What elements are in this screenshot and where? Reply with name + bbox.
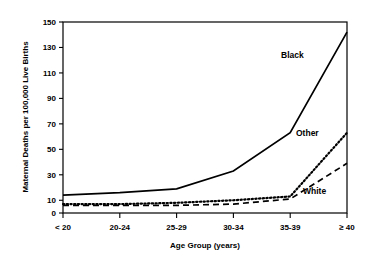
plot-frame [63,22,347,213]
y-tick-label: 30 [47,171,56,180]
x-tick-label: 30-34 [223,223,244,232]
y-tick-label: 10 [47,196,56,205]
y-tick-label: 50 [47,145,56,154]
y-tick-label: 150 [43,18,57,27]
series-line-black [63,32,347,195]
y-tick-label: 110 [43,69,56,78]
series-label-other: Other [296,128,319,138]
x-axis-title: Age Group (years) [170,241,240,250]
y-axis-tick-labels: 01030507090110130150 [43,18,57,218]
x-tick-label: 25-29 [166,223,187,232]
x-tick-label: 20-24 [110,223,131,232]
y-tick-label: 0 [52,209,57,218]
y-axis-title: Maternal Deaths per 100,000 Live Births [21,41,30,193]
series-line-white [63,163,347,205]
y-tick-label: 70 [47,120,56,129]
x-axis-ticks [63,213,347,218]
x-tick-label: < 20 [55,223,71,232]
chart-canvas: 01030507090110130150 < 2020-2425-2930-34… [0,0,365,267]
x-tick-label: 35-39 [280,223,301,232]
data-series-group [63,32,347,205]
y-tick-label: 130 [43,43,57,52]
series-label-white: White [303,186,326,196]
series-label-black: Black [281,50,304,60]
y-tick-label: 90 [47,94,56,103]
x-axis-tick-labels: < 2020-2425-2930-3435-39≥ 40 [55,223,355,232]
maternal-mortality-line-chart: 01030507090110130150 < 2020-2425-2930-34… [0,0,365,267]
x-tick-label: ≥ 40 [339,223,355,232]
